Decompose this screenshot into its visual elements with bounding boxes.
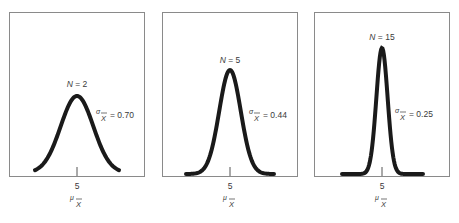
x-axis-label: μ X	[69, 194, 82, 209]
normal-curve	[186, 70, 274, 174]
svg-text:X: X	[100, 114, 107, 123]
x-tick-label: 5	[380, 181, 385, 191]
sample-size-label: N = 5	[220, 55, 241, 65]
standard-error-label: σ X = 0.70	[96, 108, 134, 123]
panel-frame	[163, 13, 298, 177]
x-axis-label: μ X	[374, 194, 387, 209]
x-axis-label: μ X	[222, 194, 235, 209]
svg-text:μ: μ	[374, 194, 379, 202]
svg-text:= 0.25: = 0.25	[409, 109, 433, 119]
sample-size-label: N = 2	[67, 79, 88, 89]
svg-text:= 0.70: = 0.70	[110, 110, 134, 120]
svg-text:X: X	[399, 113, 406, 122]
x-tick-label: 5	[75, 181, 80, 191]
x-tick-label: 5	[228, 181, 233, 191]
svg-text:μ: μ	[222, 194, 227, 202]
normal-curve	[35, 96, 119, 170]
svg-text:X: X	[380, 200, 387, 209]
standard-error-label: σ X = 0.25	[395, 107, 433, 122]
svg-text:= 0.44: = 0.44	[263, 110, 287, 120]
panel-n5: N = 5 σ X = 0.44 5 μ X	[163, 13, 298, 210]
svg-text:X: X	[228, 200, 235, 209]
svg-text:X: X	[253, 114, 260, 123]
panel-n2: N = 2 σ X = 0.70 5 μ X	[10, 13, 145, 210]
svg-text:X: X	[75, 200, 82, 209]
sample-size-label: N = 15	[369, 32, 395, 42]
panel-n15: N = 15 σ X = 0.25 5 μ X	[315, 13, 450, 210]
svg-text:μ: μ	[69, 194, 74, 202]
sampling-distribution-figure: N = 2 σ X = 0.70 5 μ X N = 5 σ X = 0.44 …	[0, 0, 459, 223]
standard-error-label: σ X = 0.44	[249, 108, 287, 123]
